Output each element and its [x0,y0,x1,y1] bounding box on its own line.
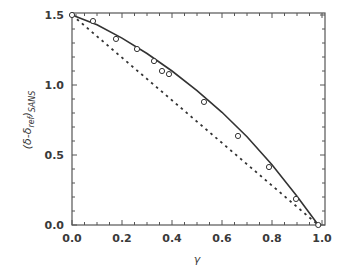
x-tick-label: 1.0 [312,232,332,245]
data-point-marker [166,71,171,76]
data-point-marker [235,133,240,138]
x-axis-label: γ [194,253,201,266]
y-tick-label: 0.0 [45,219,65,232]
svg-text:(δ-δref)SANS: (δ-δref)SANS [21,91,37,150]
plot-border [72,13,325,225]
data-point-marker [201,99,206,104]
y-tick-label: 1.5 [45,9,65,22]
data-point-marker [159,68,164,73]
x-tick-label: 0.6 [212,232,232,245]
x-tick-label: 0.2 [112,232,132,245]
ylabel-open: (δ-δ [21,127,34,149]
ylabel-sub-sans: SANS [28,91,37,113]
data-point-marker [293,196,298,201]
y-tick-labels: 0.00.51.01.5 [45,9,65,232]
data-point-marker [134,46,139,51]
data-series [69,12,320,227]
plot-frame [72,13,325,225]
data-point-marker [113,36,118,41]
y-tick-label: 1.0 [45,79,65,92]
x-tick-label: 0.8 [262,232,282,245]
y-axis-label: (δ-δref)SANS [21,91,37,150]
data-point-marker [266,164,271,169]
data-point-marker [69,12,74,17]
data-point-marker [316,222,321,227]
data-point-marker [151,58,156,63]
chart: 0.00.20.40.60.81.0 0.00.51.01.5 γ (δ-δre… [0,0,338,275]
x-tick-label: 0.0 [62,232,82,245]
x-tick-labels: 0.00.20.40.60.81.0 [62,232,332,245]
data-point-marker [90,18,95,23]
y-tick-label: 0.5 [45,149,65,162]
dashed-reference-line [72,15,318,225]
axis-ticks [72,13,325,225]
x-tick-label: 0.4 [162,232,182,245]
